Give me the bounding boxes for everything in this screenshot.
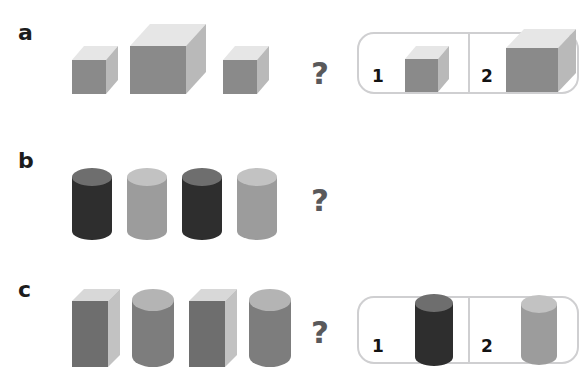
sequence-item-cylinder-dark [182, 168, 222, 240]
sequence-b [60, 128, 300, 256]
option-number-2: 2 [481, 68, 493, 85]
option-shape-cube-small [405, 46, 449, 92]
sequence-item-cube-large [130, 24, 206, 100]
answer-option-2[interactable]: 2 [468, 34, 577, 92]
sequence-item-cylinder-dark [72, 168, 112, 240]
sequence-c [60, 257, 300, 385]
row-label-a: a [18, 22, 33, 44]
puzzle-row-b: b [0, 128, 584, 256]
puzzle-row-c: c [0, 257, 584, 385]
question-mark-b: ? [311, 185, 329, 216]
sequence-item-cylinder-light [237, 168, 277, 240]
row-label-b: b [18, 150, 34, 172]
option-number-1: 1 [372, 68, 384, 85]
sequence-a [60, 0, 300, 128]
sequence-item-cylinder-tall [132, 289, 174, 373]
sequence-item-cylinder-light [127, 168, 167, 240]
row-label-c: c [18, 279, 31, 301]
puzzle-row-a: a ? [0, 0, 584, 128]
sequence-item-box-tall [72, 289, 120, 373]
answer-option-1[interactable]: 1 [359, 34, 468, 92]
sequence-item-box-tall [189, 289, 237, 373]
question-mark-c: ? [311, 317, 329, 348]
sequence-item-cube-small [72, 46, 118, 96]
answer-panel-a[interactable]: 1 2 [357, 32, 579, 94]
option-shape-cube-large [506, 29, 576, 97]
sequence-item-cylinder-tall [249, 289, 291, 373]
sequence-item-cube-small [223, 46, 269, 96]
question-mark-a: ? [311, 58, 329, 89]
